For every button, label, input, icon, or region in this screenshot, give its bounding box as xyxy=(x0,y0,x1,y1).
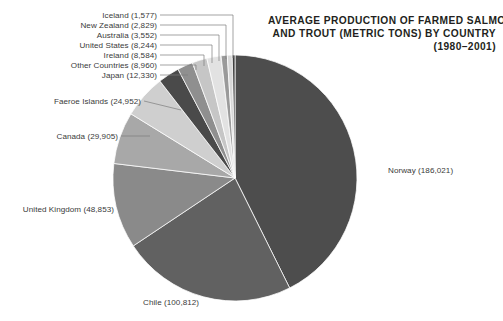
slice-label-australia: Australia (3,552) xyxy=(0,31,157,40)
slice-label-japan: Japan (12,330) xyxy=(0,71,157,80)
slice-label-faeroe-islands: Faeroe Islands (24,952) xyxy=(0,97,141,106)
slice-label-canada: Canada (29,905) xyxy=(0,132,118,141)
chart-title-line-3: (1980–2001) xyxy=(268,40,496,53)
chart-title-line-1: AVERAGE PRODUCTION OF FARMED SALMON xyxy=(268,14,496,27)
slice-label-chile: Chile (100,812) xyxy=(143,298,199,307)
slice-label-united-states: United States (8,244) xyxy=(0,41,157,50)
chart-title-line-2: AND TROUT (METRIC TONS) BY COUNTRY xyxy=(268,27,496,40)
slice-label-other-countries: Other Countries (8,960) xyxy=(0,61,157,70)
slice-label-new-zealand: New Zealand (2,829) xyxy=(0,21,157,30)
chart-title: AVERAGE PRODUCTION OF FARMED SALMON AND … xyxy=(268,14,496,54)
slice-label-iceland: Iceland (1,577) xyxy=(0,11,157,20)
leader-line-0 xyxy=(160,15,233,58)
slice-label-ireland: Ireland (8,584) xyxy=(0,51,157,60)
pie-chart-figure: AVERAGE PRODUCTION OF FARMED SALMON AND … xyxy=(0,0,503,321)
leader-line-1 xyxy=(160,25,226,59)
leader-line-2 xyxy=(160,35,219,61)
slice-label-norway: Norway (186,021) xyxy=(388,166,453,175)
pie-slice-group xyxy=(113,55,357,301)
slice-label-united-kingdom: United Kingdom (48,853) xyxy=(0,205,114,214)
